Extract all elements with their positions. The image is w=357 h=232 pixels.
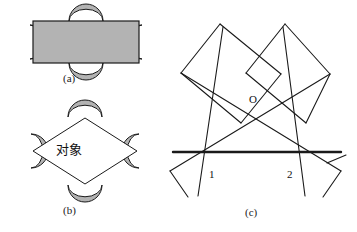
object-diamond-b bbox=[33, 118, 137, 184]
object-label-b: 对象 bbox=[56, 139, 82, 158]
tail-right-outer-c bbox=[323, 171, 341, 197]
right-quadrilateral-c bbox=[246, 24, 330, 123]
panel-b bbox=[31, 100, 139, 202]
workpiece-rect-a bbox=[33, 21, 139, 63]
tail-right-upper-c bbox=[327, 155, 346, 163]
clamp-bottom-b bbox=[68, 185, 102, 202]
figure-canvas bbox=[0, 0, 357, 232]
panel-caption-c: (c) bbox=[245, 206, 257, 218]
panel-caption-b: (b) bbox=[63, 204, 76, 216]
panel-c bbox=[170, 24, 346, 197]
tail-left-outer-c bbox=[170, 171, 188, 197]
clamp-top-a bbox=[69, 4, 103, 21]
ray-diagonal-b-c bbox=[181, 73, 341, 171]
panel-caption-a: (a) bbox=[63, 72, 75, 84]
clamp-top-b bbox=[68, 100, 102, 117]
point-label-2: 2 bbox=[287, 168, 293, 180]
figure-root: 对象 O 1 2 (a) (b) (c) bbox=[0, 0, 357, 232]
left-quadrilateral-c bbox=[181, 24, 281, 123]
panel-a bbox=[30, 4, 142, 80]
point-label-1: 1 bbox=[209, 168, 215, 180]
point-label-o: O bbox=[249, 93, 257, 105]
